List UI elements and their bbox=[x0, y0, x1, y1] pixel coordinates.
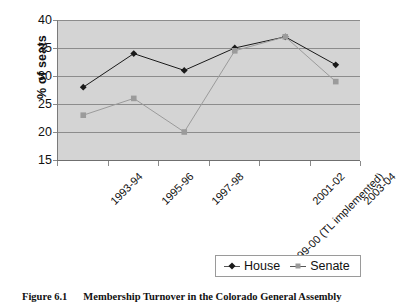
y-tick-mark bbox=[53, 104, 57, 105]
chart-legend: HouseSenate bbox=[215, 255, 361, 277]
x-tick-mark bbox=[57, 161, 58, 166]
data-point-senate bbox=[232, 48, 238, 54]
legend-entry-house: House bbox=[222, 259, 282, 273]
figure-caption: Figure 6.1Membership Turnover in the Col… bbox=[22, 291, 362, 302]
data-point-house bbox=[130, 50, 137, 57]
plot-area bbox=[57, 20, 360, 160]
x-tick-label: 2001-02 bbox=[310, 170, 347, 207]
data-point-house bbox=[80, 84, 87, 91]
y-tick-label: 40 bbox=[26, 15, 52, 25]
data-point-house bbox=[332, 61, 339, 68]
legend-marker-diamond-icon bbox=[224, 266, 240, 267]
square-marker-icon bbox=[296, 264, 301, 269]
series-lines bbox=[58, 20, 361, 160]
caption-text: Membership Turnover in the Colorado Gene… bbox=[83, 291, 341, 302]
y-tick-label: 25 bbox=[26, 99, 52, 109]
data-point-senate bbox=[80, 112, 86, 118]
x-tick-label: 1993-94 bbox=[108, 170, 145, 207]
x-tick-mark bbox=[209, 161, 210, 166]
legend-entry-senate: Senate bbox=[288, 259, 352, 273]
y-tick-mark bbox=[53, 76, 57, 77]
diamond-marker-icon bbox=[228, 262, 235, 269]
data-point-senate bbox=[333, 79, 339, 85]
data-point-senate bbox=[131, 96, 137, 102]
x-tick-mark bbox=[360, 161, 361, 166]
data-point-senate bbox=[282, 34, 288, 40]
data-point-senate bbox=[181, 129, 187, 135]
x-tick-mark bbox=[108, 161, 109, 166]
x-tick-mark bbox=[158, 161, 159, 166]
y-tick-label: 15 bbox=[26, 155, 52, 165]
data-point-house bbox=[181, 67, 188, 74]
series-line-senate bbox=[83, 37, 336, 132]
y-tick-mark bbox=[53, 48, 57, 49]
y-tick-label: 20 bbox=[26, 127, 52, 137]
y-tick-mark bbox=[53, 20, 57, 21]
caption-number: Figure 6.1 bbox=[22, 291, 67, 302]
legend-label: Senate bbox=[310, 259, 350, 273]
x-tick-label: 1997-98 bbox=[209, 170, 246, 207]
x-tick-mark bbox=[310, 161, 311, 166]
x-tick-mark bbox=[259, 161, 260, 166]
y-tick-label: 35 bbox=[26, 43, 52, 53]
y-tick-label: 30 bbox=[26, 71, 52, 81]
legend-label: House bbox=[244, 259, 280, 273]
y-tick-mark bbox=[53, 132, 57, 133]
legend-marker-square-icon bbox=[290, 266, 306, 267]
y-axis-tick-labels: 152025303540 bbox=[22, 0, 52, 180]
series-line-house bbox=[83, 37, 336, 87]
x-tick-label: 1995-96 bbox=[159, 170, 196, 207]
